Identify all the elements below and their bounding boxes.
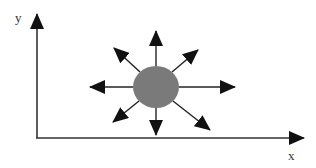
radiating-diagram <box>0 0 316 168</box>
y-axis-label: y <box>15 10 22 26</box>
arrow-down-right <box>173 101 210 130</box>
arrow-up-left <box>114 48 140 72</box>
arrow-up-right <box>172 50 198 72</box>
x-axis-label: x <box>288 148 295 164</box>
center-disk <box>133 66 179 108</box>
arrow-down-left <box>113 101 139 122</box>
